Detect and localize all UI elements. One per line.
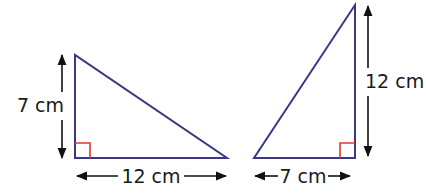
left-triangle-group: 7 cm 12 cm [17, 55, 227, 187]
left-vertical-label: 7 cm [17, 94, 64, 116]
right-angle-marker-left [75, 143, 90, 158]
right-triangle-group: 12 cm 7 cm [254, 5, 424, 187]
right-angle-marker-right [340, 143, 355, 158]
right-horizontal-label: 7 cm [279, 165, 326, 187]
right-vertical-label: 12 cm [365, 70, 424, 92]
right-triangle [254, 5, 355, 158]
right-triangles-diagram: 7 cm 12 cm 12 cm 7 cm [0, 0, 426, 195]
left-triangle [75, 55, 227, 158]
left-horizontal-label: 12 cm [121, 165, 180, 187]
